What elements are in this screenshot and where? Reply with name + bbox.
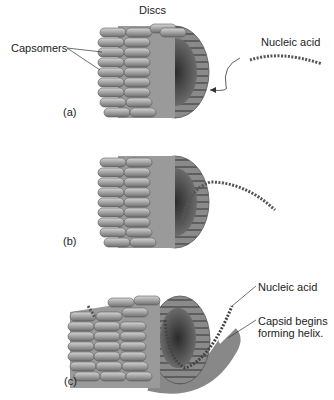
- panel-a-disc: [98, 24, 209, 118]
- panel-label-b: (b): [63, 235, 76, 247]
- panel-b-disc: [98, 156, 209, 248]
- panel-label-a: (a): [63, 106, 76, 118]
- nucleic-acid-coil: [250, 56, 322, 64]
- capsid-label-line1: Capsid begins: [258, 315, 328, 327]
- nucleic-acid-label-c: Nucleic acid: [258, 281, 317, 293]
- nucleic-acid-label-a: Nucleic acid: [261, 36, 320, 48]
- nucleic-acid-pointer: [232, 286, 256, 306]
- capsid-label-line2: forming helix.: [258, 327, 323, 339]
- capsomers-label: Capsomers: [11, 42, 67, 54]
- panel-label-c: (c): [64, 375, 77, 387]
- discs-label: Discs: [139, 4, 166, 16]
- insertion-arrow: [210, 58, 240, 91]
- assembly-diagram: [0, 0, 334, 400]
- capsid-pointer: [228, 320, 256, 338]
- panel-c-helix: [68, 296, 229, 388]
